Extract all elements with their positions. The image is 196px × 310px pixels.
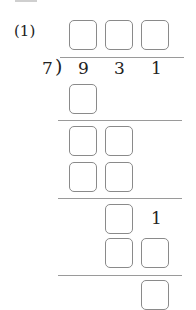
cropped-header-bar [15, 0, 37, 2]
quotient-box-ones[interactable] [141, 20, 169, 50]
division-bracket: ) [55, 58, 62, 75]
step3-remainder-box[interactable] [105, 204, 133, 234]
step2-product-box-2[interactable] [105, 162, 133, 192]
step2-remainder-box-1[interactable] [69, 126, 97, 156]
step3-rule [58, 275, 182, 276]
brought-down-digit: 1 [151, 210, 162, 227]
step1-rule [58, 120, 182, 121]
step2-remainder-box-2[interactable] [105, 126, 133, 156]
quotient-box-hundreds[interactable] [69, 20, 97, 50]
dividend-digit-ones: 1 [151, 60, 162, 77]
divisor: 7 [42, 60, 53, 77]
step2-product-box-1[interactable] [69, 162, 97, 192]
dividend-digit-tens: 3 [114, 60, 125, 77]
problem-label: (1) [14, 23, 35, 40]
step3-product-box-1[interactable] [105, 238, 133, 268]
dividend-digit-hundreds: 9 [78, 60, 89, 77]
final-remainder-box[interactable] [141, 280, 169, 310]
step1-product-box[interactable] [69, 84, 97, 114]
step3-product-box-2[interactable] [141, 238, 169, 268]
step2-rule [58, 198, 182, 199]
quotient-box-tens[interactable] [105, 20, 133, 50]
